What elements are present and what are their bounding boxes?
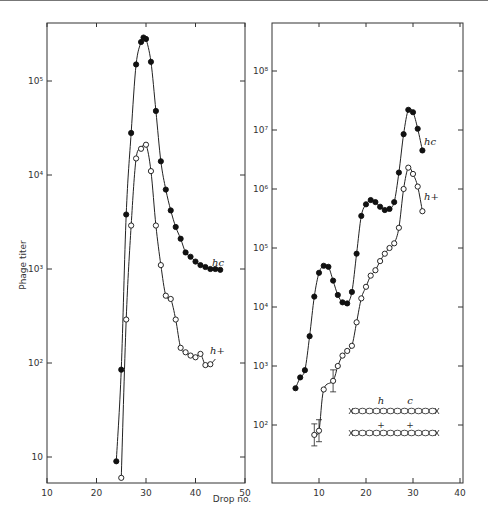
filled-data-point [298, 375, 303, 380]
open-data-point [359, 296, 364, 301]
inset-plus-label: + [377, 420, 385, 430]
x-tick-label: 10 [313, 488, 325, 498]
open-data-point [410, 171, 415, 176]
inset-gene-label: c [407, 395, 413, 406]
filled-data-point [420, 148, 425, 153]
open-data-point [335, 363, 340, 368]
y-tick-label: 10³ [253, 361, 268, 371]
open-data-point [183, 350, 188, 355]
filled-data-point [354, 251, 359, 256]
right-panel: 1020304010²10³10⁴10⁵10⁶10⁷10⁸hch+hc++ [253, 23, 466, 498]
filled-data-point [183, 250, 188, 255]
filled-data-point [392, 199, 397, 204]
chart-canvas: 10203040501010²10³10⁴10⁵hch+ 1020304010²… [0, 0, 488, 525]
x-tick-label: 40 [190, 488, 202, 498]
filled-data-point [134, 62, 139, 67]
open-data-point [188, 353, 193, 358]
x-tick-label: 10 [41, 488, 53, 498]
open-data-point [321, 387, 326, 392]
y-tick-label: 10² [28, 358, 43, 368]
filled-data-point [373, 199, 378, 204]
filled-data-point [148, 59, 153, 64]
open-data-point [173, 317, 178, 322]
filled-data-point [401, 132, 406, 137]
open-data-point [124, 317, 129, 322]
chromosome-inset: hc++ [349, 395, 439, 436]
open-data-point [378, 258, 383, 263]
filled-data-point [410, 110, 415, 115]
filled-data-point [143, 36, 148, 41]
filled-data-point [415, 126, 420, 131]
left-curve-hc [116, 37, 220, 462]
open-data-point [349, 343, 354, 348]
open-data-point [387, 245, 392, 250]
open-data-point [129, 223, 134, 228]
open-data-point [203, 362, 208, 367]
open-data-point [193, 355, 198, 360]
x-tick-label: 40 [454, 488, 466, 498]
inset-gene-label: h [378, 395, 384, 406]
open-data-point [178, 345, 183, 350]
left-panel: 10203040501010²10³10⁴10⁵hch+ [28, 23, 251, 498]
filled-data-point [203, 264, 208, 269]
filled-data-point [307, 334, 312, 339]
filled-data-point [326, 264, 331, 269]
filled-data-point [387, 206, 392, 211]
filled-data-point [335, 292, 340, 297]
open-data-point [134, 156, 139, 161]
open-data-point [401, 186, 406, 191]
open-data-point [345, 348, 350, 353]
filled-data-point [173, 224, 178, 229]
open-data-point [312, 432, 317, 437]
right-hplus-label: h+ [424, 191, 439, 202]
open-data-point [368, 273, 373, 278]
open-data-point [415, 184, 420, 189]
filled-data-point [119, 367, 124, 372]
y-tick-label: 10⁸ [253, 66, 268, 76]
open-data-point [163, 293, 168, 298]
filled-data-point [193, 259, 198, 264]
filled-data-point [158, 159, 163, 164]
right-frame [272, 23, 463, 483]
filled-data-point [124, 212, 129, 217]
filled-data-point [178, 236, 183, 241]
x-tick-label: 20 [360, 488, 372, 498]
left-curve-hplus [121, 143, 215, 477]
x-tick-label: 30 [140, 488, 152, 498]
filled-data-point [345, 301, 350, 306]
left-frame [47, 23, 245, 483]
filled-data-point [331, 278, 336, 283]
open-data-point [138, 146, 143, 151]
open-data-point [168, 296, 173, 301]
open-data-point [363, 284, 368, 289]
filled-data-point [363, 202, 368, 207]
filled-data-point [312, 294, 317, 299]
left-hplus-label: h+ [210, 345, 225, 356]
y-tick-label: 10⁵ [28, 76, 43, 86]
filled-data-point [198, 263, 203, 268]
open-data-point [382, 251, 387, 256]
filled-data-point [163, 187, 168, 192]
right-curve-hplus [314, 167, 422, 435]
y-tick-label: 10⁴ [253, 302, 268, 312]
right-curve-hc [296, 108, 423, 388]
filled-data-point [316, 270, 321, 275]
open-data-point [396, 225, 401, 230]
y-tick-label: 10⁶ [253, 184, 268, 194]
y-tick-label: 10² [253, 420, 268, 430]
y-axis-title: Phage titer [18, 240, 28, 290]
open-data-point [143, 142, 148, 147]
right-hc-label: hc [424, 136, 436, 147]
filled-data-point [129, 130, 134, 135]
open-data-point [158, 263, 163, 268]
filled-data-point [378, 204, 383, 209]
open-data-point [148, 169, 153, 174]
y-tick-label: 10⁵ [253, 243, 268, 253]
x-tick-label: 30 [407, 488, 419, 498]
filled-data-point [349, 289, 354, 294]
open-data-point [392, 241, 397, 246]
y-tick-label: 10³ [28, 264, 43, 274]
filled-data-point [359, 213, 364, 218]
open-data-point [373, 268, 378, 273]
open-data-point [208, 362, 213, 367]
